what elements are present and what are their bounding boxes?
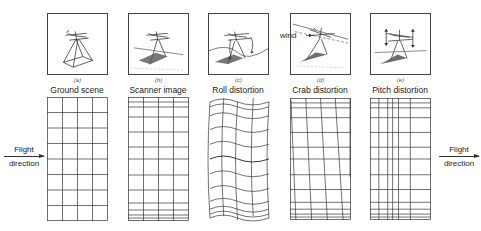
- panel-b-caption: Scanner image: [118, 85, 198, 95]
- panel-c-illustration: [208, 13, 269, 75]
- airplane-ground-scene-icon: [48, 14, 107, 74]
- flight-direction-right: Flight direction: [439, 144, 479, 169]
- grid-roll-distortion: [208, 97, 269, 221]
- panel-d-illustration: [290, 13, 351, 75]
- panel-d-sublabel: (d): [290, 77, 351, 83]
- panel-c-caption: Roll distortion: [198, 85, 278, 95]
- roll-grid-icon: [208, 97, 269, 221]
- crab-grid-icon: [290, 97, 351, 221]
- panel-e-sublabel: (e): [370, 77, 431, 83]
- uniform-grid-icon: [47, 97, 108, 221]
- flight-label-line2: direction: [439, 158, 479, 169]
- grid-ground-scene: [47, 97, 108, 221]
- flight-label-line1: Flight: [4, 144, 44, 155]
- airplane-crab-distortion-icon: [291, 14, 350, 74]
- panel-b-illustration: [128, 13, 189, 75]
- scanner-grid-icon: [128, 97, 189, 221]
- wind-label: wind: [280, 31, 296, 40]
- airplane-scanner-image-icon: [129, 14, 188, 74]
- airplane-roll-distortion-icon: [209, 14, 268, 74]
- flight-label-line1: Flight: [439, 144, 479, 155]
- panel-e-illustration: [370, 13, 431, 75]
- panel-e-caption: Pitch distortion: [360, 85, 440, 95]
- pitch-grid-icon: [370, 97, 431, 221]
- panel-c-sublabel: (c): [208, 77, 269, 83]
- panel-b-sublabel: (b): [128, 77, 189, 83]
- grid-pitch-distortion: [370, 97, 431, 221]
- grid-crab-distortion: [290, 97, 351, 221]
- panel-a-caption: Ground scene: [37, 85, 117, 95]
- flight-direction-left: Flight direction: [4, 144, 44, 169]
- panel-a-illustration: [47, 13, 108, 75]
- panel-a-sublabel: (a): [47, 77, 108, 83]
- arrow-right-icon: [4, 156, 44, 157]
- airplane-pitch-distortion-icon: [371, 14, 430, 74]
- flight-label-line2: direction: [4, 158, 44, 169]
- grid-scanner-image: [128, 97, 189, 221]
- panel-d-caption: Crab distortion: [280, 85, 360, 95]
- arrow-right-icon: [439, 156, 479, 157]
